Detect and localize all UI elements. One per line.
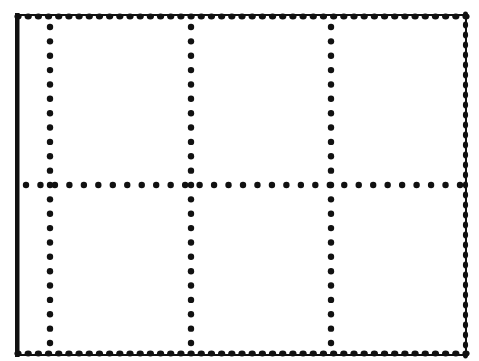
frame-top-edge xyxy=(14,14,469,20)
stamp-sheet-diagram xyxy=(0,0,479,361)
frame-right-edge xyxy=(463,12,468,359)
vertical-perforation-lines xyxy=(47,24,334,346)
horizontal-perforation-lines xyxy=(23,182,463,188)
vertical-perforation-2 xyxy=(188,24,194,346)
frame-left-edge xyxy=(15,13,20,357)
frame-bottom-edge xyxy=(14,351,469,357)
horizontal-perforation-1 xyxy=(23,182,463,188)
